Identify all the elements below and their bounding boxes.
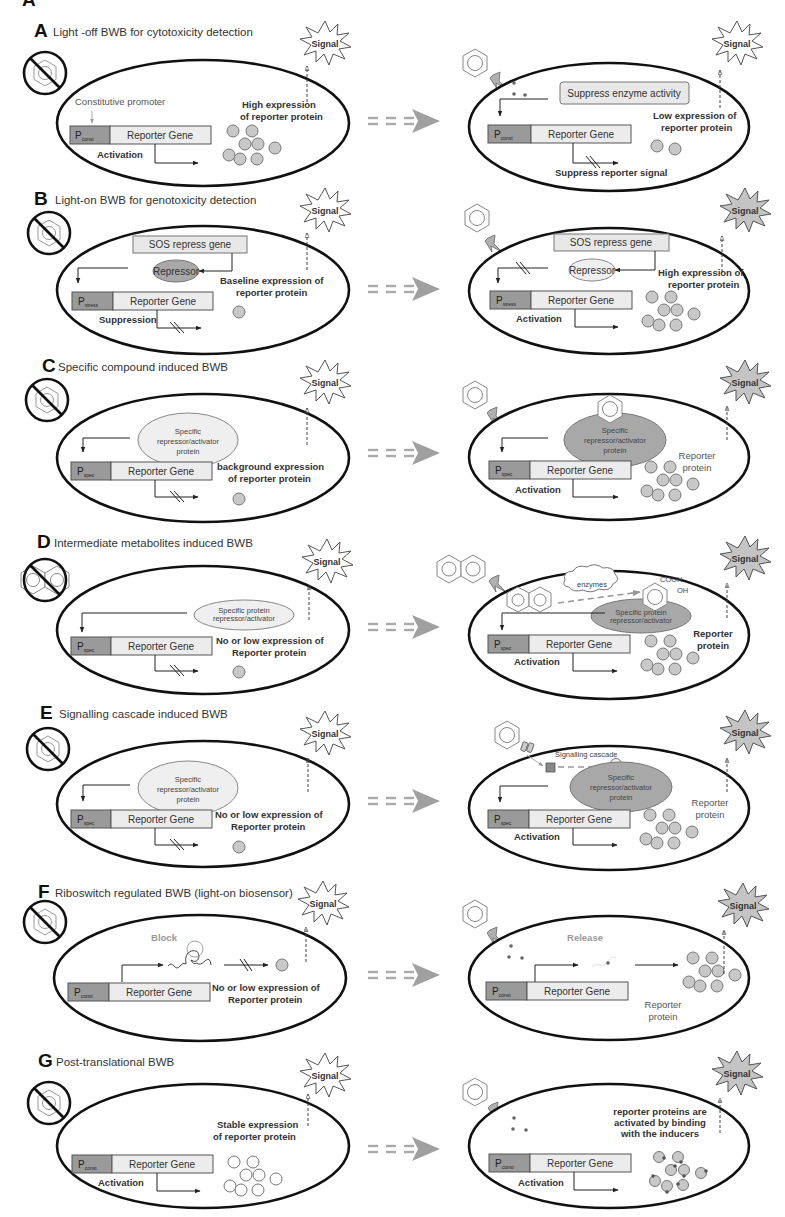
panel-letter: C: [42, 355, 56, 376]
expression-label: Reporterprotein: [693, 628, 733, 651]
panel-letter: F: [38, 881, 50, 902]
reporter-gene-label: Reporter Gene: [129, 1159, 196, 1170]
panel-title: Specific compound induced BWB: [58, 361, 228, 373]
action-label: Activation: [514, 656, 560, 667]
action-label: Activation: [98, 1177, 144, 1188]
prohibited-compound-icon: [24, 901, 66, 943]
signal-label: Signal: [731, 554, 758, 564]
prohibited-naphthalene-icon: [21, 559, 69, 601]
expression-label: background expressionof reporter protein: [217, 461, 324, 484]
suppress-enzyme-label: Suppress enzyme activity: [567, 88, 680, 99]
panel-c: C Specific compound induced BWB Signal S…: [26, 355, 771, 522]
panel-e-left: Signal Specificrepressor/activatorprotei…: [27, 711, 351, 867]
panel-b-left: Signal SOS repress gene Repressor Pstres…: [28, 188, 351, 354]
panel-title: Riboswitch regulated BWB (light-on biose…: [55, 887, 293, 899]
panel-d-left: Signal Specific proteinrepressor/activat…: [21, 539, 353, 694]
oh-label: OH: [677, 586, 688, 595]
repressor-label: Repressor: [569, 265, 616, 276]
panel-f-left: Signal Block Pconst Reporter Gene No or …: [24, 881, 349, 1041]
transition-arrow-icon: [368, 441, 440, 465]
lightning-entry-icon: [489, 575, 506, 592]
action-label: Suppression: [99, 314, 157, 325]
panel-a-left: Signal Constitutive promoter Pconst Repo…: [24, 21, 351, 186]
enzymes-label: enzymes: [577, 580, 607, 589]
transition-arrow-icon: [368, 963, 440, 987]
action-label: Activation: [516, 313, 562, 324]
riboswitch-release-label: Release: [567, 932, 603, 943]
expression-label: Reporterprotein: [692, 797, 729, 820]
signal-label: Signal: [311, 206, 338, 216]
signal-label: Signal: [311, 378, 338, 388]
transition-arrow-icon: [368, 615, 440, 639]
transition-arrow-icon: [368, 789, 440, 813]
panel-letter: B: [34, 188, 48, 209]
reporter-gene-label: Reporter Gene: [548, 129, 615, 140]
panel-d: D Intermediate metabolites induced BWB S…: [21, 531, 771, 699]
transition-arrow-icon: [368, 109, 440, 133]
panel-g-left: Signal Stable expressionof reporter prot…: [28, 1053, 351, 1208]
panel-f-right: Release Signal Pconst Reporter Gene Repo…: [463, 883, 769, 1040]
panel-c-right: Signal Specificrepressor/activatorprotei…: [463, 360, 771, 520]
signal-label: Signal: [309, 899, 336, 909]
signal-label: Signal: [723, 1069, 750, 1079]
benzene-inducer-icon: [495, 721, 519, 749]
panel-a-right: Suppress enzyme activity Signal Pconst R…: [463, 21, 763, 191]
expression-label: Reporterprotein: [679, 450, 716, 473]
panel-g: G Post-translational BWB Signal Stable e…: [28, 1050, 763, 1208]
panel-letter: D: [37, 531, 51, 552]
panel-c-left: Signal Specificrepressor/activatorprotei…: [26, 360, 351, 522]
reporter-gene-label: Reporter Gene: [547, 465, 614, 476]
prohibited-compound-icon: [28, 1082, 70, 1124]
constitutive-promoter-label: Constitutive promoter: [75, 96, 165, 107]
benzene-inducer-icon: [463, 381, 487, 409]
action-label: Activation: [97, 149, 143, 160]
naphthalene-inducer-icon: [437, 555, 485, 583]
panel-letter: A: [34, 20, 48, 41]
benzene-inducer-icon: [463, 49, 487, 77]
panel-g-right: Signal reporter proteins areactivated by…: [463, 1051, 763, 1208]
signal-label: Signal: [311, 729, 338, 739]
lightning-entry-icon: [485, 235, 502, 252]
panel-a: A Light -off BWB for cytotoxicity detect…: [24, 20, 763, 191]
reporter-gene-label: Reporter Gene: [128, 466, 195, 477]
cascade-kinase-icon: [546, 763, 555, 772]
expression-label: Reporterprotein: [645, 999, 682, 1022]
reporter-gene-label: Reporter Gene: [126, 987, 193, 998]
panel-b: B Light-on BWB for genotoxicity detectio…: [28, 188, 771, 354]
action-label: Activation: [518, 1177, 564, 1188]
benzene-inducer-icon: [465, 204, 489, 232]
reporter-gene-label: Reporter Gene: [130, 296, 197, 307]
panel-letter: G: [38, 1050, 53, 1071]
signal-label: Signal: [729, 901, 756, 911]
panel-e: E Signalling cascade induced BWB Signal …: [27, 702, 771, 870]
riboswitch-block-label: Block: [151, 932, 178, 943]
reporter-gene-label: Reporter Gene: [544, 986, 611, 997]
repressor-label: Repressor: [153, 266, 200, 277]
membrane-receptor-icon: [520, 742, 534, 753]
panel-title: Signalling cascade induced BWB: [59, 708, 228, 720]
reporter-gene-label: Reporter Gene: [128, 814, 195, 825]
action-label: Activation: [514, 831, 560, 842]
prohibited-compound-icon: [28, 212, 70, 254]
regulator-label: Specific proteinrepressor/activator: [610, 608, 673, 625]
expression-label: High expression ofreporter protein: [658, 267, 744, 290]
action-label: Suppress reporter signal: [555, 167, 667, 178]
expression-label: Low expression ofreporter protein: [653, 110, 737, 133]
reporter-gene-label: Reporter Gene: [127, 130, 194, 141]
panel-title: Light -off BWB for cytotoxicity detectio…: [53, 26, 253, 38]
bacterial-cell: [57, 60, 349, 186]
reporter-gene-label: Reporter Gene: [546, 814, 613, 825]
reporter-gene-label: Reporter Gene: [546, 639, 613, 650]
reporter-gene-label: Reporter Gene: [128, 641, 195, 652]
cascade-label: Signalling cascade: [555, 750, 618, 759]
panel-f: F Riboswitch regulated BWB (light-on bio…: [24, 881, 769, 1041]
panel-title: Post-translational BWB: [56, 1056, 175, 1068]
expression-label: Stable expressionof reporter protein: [213, 1119, 299, 1142]
panel-d-right: enzymes COOH OH Specific proteinrepresso…: [437, 536, 771, 699]
panel-title: Light-on BWB for genotoxicity detection: [55, 194, 256, 206]
panel-letter: E: [40, 702, 53, 723]
transition-arrow-icon: [368, 277, 440, 301]
signal-label: Signal: [731, 378, 758, 388]
regulator-label: Specific proteinrepressor/activator: [213, 606, 276, 623]
signal-label: Signal: [311, 1071, 338, 1081]
